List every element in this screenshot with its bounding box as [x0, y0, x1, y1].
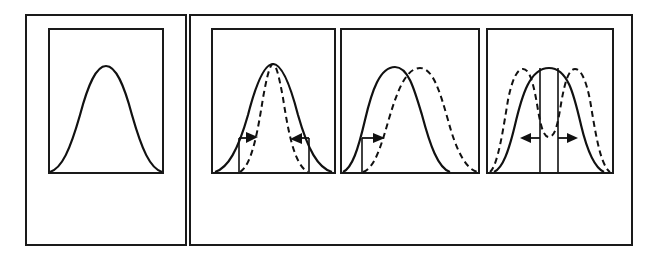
directional-panel [341, 29, 479, 173]
directional-dashed-curve [363, 68, 478, 172]
selection-frame [190, 15, 632, 245]
selection-diagram [0, 0, 652, 259]
baseline-panel [49, 29, 163, 173]
stabilizing-panel [212, 29, 335, 173]
stabilizing-solid-curve [215, 64, 332, 172]
arrowhead-icon [290, 133, 302, 144]
baseline-curve [50, 66, 162, 172]
directional-solid-curve [343, 67, 450, 172]
arrowhead-icon [520, 133, 531, 143]
stabilizing-plot-box [212, 29, 335, 173]
baseline-plot-box [49, 29, 163, 173]
arrowhead-icon [567, 133, 578, 143]
disruptive-panel [487, 29, 613, 173]
disruptive-solid-curve [494, 68, 604, 172]
arrowhead-icon [373, 133, 385, 143]
disruptive-plot-box [487, 29, 613, 173]
